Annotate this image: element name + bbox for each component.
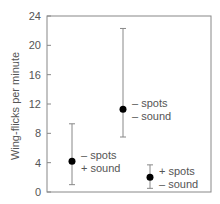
data-point-group: – spots+ sound [69,124,121,185]
y-axis-label: Wing-flicks per minute [9,52,21,160]
y-axis-ticks: 04812162024 [29,10,51,198]
mean-marker [147,174,154,181]
y-tick-label: 24 [29,10,41,22]
y-tick-label: 20 [29,39,41,51]
data-point-group: – spots– sound [120,28,172,137]
y-tick-label: 0 [35,186,41,198]
point-label-sound: – sound [159,178,198,190]
y-tick-label: 12 [29,98,41,110]
y-tick-label: 4 [35,157,41,169]
point-label-sound: + sound [81,162,120,174]
data-point-group: + spots– sound [147,165,199,190]
y-tick-label: 16 [29,69,41,81]
point-label-spots: – spots [132,97,168,109]
data-points: – spots+ sound– spots– sound+ spots– sou… [69,28,199,190]
mean-marker [69,158,76,165]
point-label-spots: – spots [81,149,117,161]
point-label-spots: + spots [159,165,195,177]
point-label-sound: – sound [132,110,171,122]
mean-marker [120,106,127,113]
chart: 04812162024 Wing-flicks per minute – spo… [0,0,220,204]
y-tick-label: 8 [35,127,41,139]
